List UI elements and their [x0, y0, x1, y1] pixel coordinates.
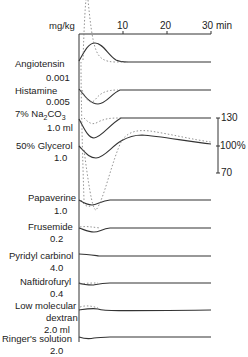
chart-traces [0, 0, 248, 357]
trace-glycerol [79, 135, 211, 158]
trace-pyridyl [79, 254, 211, 256]
trace-naftidrofuryl [79, 283, 211, 285]
dotted-down-a [81, 62, 84, 200]
trace-frusemide [79, 228, 211, 232]
trace-papaverine [79, 200, 211, 205]
dotted-histamine [82, 90, 118, 102]
dotted-frusemide [80, 227, 100, 228]
trace-histamine [79, 89, 211, 104]
trace-dextran [79, 309, 211, 311]
dotted-glycerol [84, 131, 211, 210]
trace-angiotensin [79, 43, 211, 62]
trace-ringers [79, 337, 211, 339]
dotted-dextran [80, 306, 98, 308]
